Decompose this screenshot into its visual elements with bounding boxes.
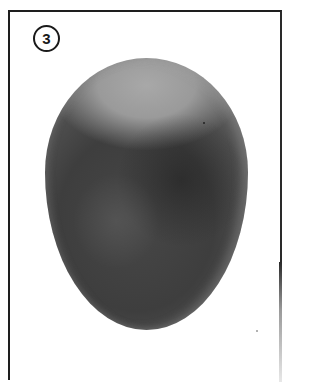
frame-edge [279,262,282,382]
speck [256,330,258,332]
figure-number: 3 [42,31,50,46]
speck [203,122,205,124]
figure-number-badge: 3 [33,25,60,52]
